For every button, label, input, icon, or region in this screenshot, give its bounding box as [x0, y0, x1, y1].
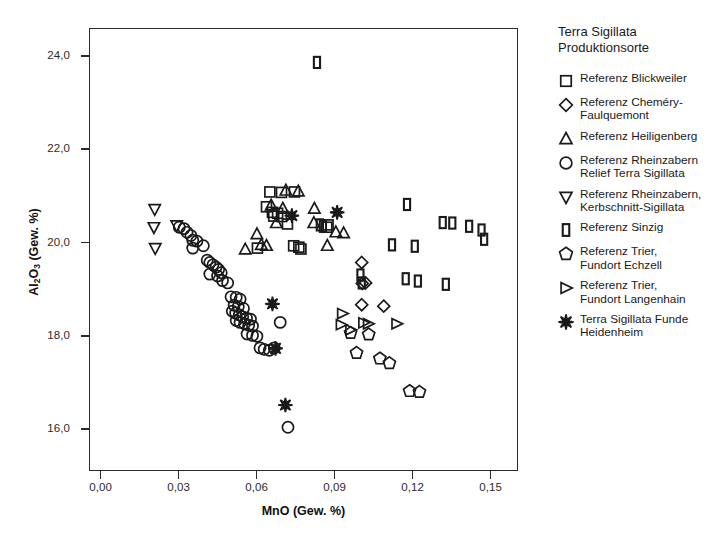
- data-point-diamond: [356, 299, 368, 311]
- series-circle: [174, 222, 294, 433]
- y-tick: [81, 428, 89, 430]
- legend-item-label: Referenz Heiligenberg: [580, 130, 697, 143]
- x-tick: [178, 471, 180, 479]
- diamond-icon: [556, 97, 576, 113]
- data-point-diamond: [356, 257, 368, 269]
- x-tick: [256, 471, 258, 479]
- legend-label-line: Referenz Cheméry-: [580, 96, 683, 109]
- data-point-star: [265, 297, 279, 311]
- y-tick: [81, 55, 89, 57]
- data-point-square: [265, 187, 275, 197]
- legend-label-line: Referenz Trier,: [580, 245, 662, 258]
- data-point-triangle-up: [251, 228, 262, 239]
- data-point-sinzig: [403, 273, 409, 284]
- series-sinzig: [314, 57, 487, 290]
- x-tick-label: 0,03: [154, 481, 204, 493]
- data-point-sinzig: [449, 217, 455, 228]
- x-tick-label: 0,15: [466, 481, 516, 493]
- legend-item-5[interactable]: Referenz Sinzig: [556, 221, 722, 238]
- data-point-sinzig: [443, 279, 449, 290]
- y-axis-title: Al2O3 (Gew. %): [27, 132, 41, 372]
- legend-item-label: Referenz Trier,Fundort Langenhain: [580, 279, 686, 306]
- data-point-triangle-up: [322, 240, 333, 251]
- y-tick-label: 16,0: [24, 422, 70, 434]
- circle-icon: [556, 155, 576, 171]
- sinzig-icon: [556, 222, 576, 238]
- data-point-star: [330, 205, 344, 219]
- legend-item-label: Referenz Blickweiler: [580, 72, 687, 85]
- data-point-sinzig: [389, 239, 395, 250]
- legend-item-label: Referenz Rheinzabern,Kerbschnitt-Sigilla…: [580, 188, 701, 215]
- legend-title-line1: Terra Sigillata: [558, 24, 722, 40]
- x-tick: [490, 471, 492, 479]
- triangle-right-icon: [556, 280, 576, 296]
- legend-label-line: Faulquemont: [580, 109, 683, 122]
- pentagon-icon: [556, 246, 576, 262]
- legend-label-line: Terra Sigillata Funde: [580, 313, 688, 326]
- legend-item-list: Referenz BlickweilerReferenz Cheméry-Fau…: [556, 72, 722, 340]
- legend-label-line: Referenz Trier,: [580, 279, 686, 292]
- series-triangle-right: [336, 308, 402, 334]
- legend-label-line: Fundort Langenhain: [580, 293, 686, 306]
- legend-label-line: Referenz Heiligenberg: [580, 130, 697, 143]
- legend-item-3[interactable]: Referenz RheinzabernRelief Terra Sigilla…: [556, 154, 722, 181]
- data-point-star: [278, 398, 292, 412]
- legend-item-label: Referenz Sinzig: [580, 221, 663, 234]
- data-point-pentagon: [350, 347, 362, 359]
- legend-item-4[interactable]: Referenz Rheinzabern,Kerbschnitt-Sigilla…: [556, 188, 722, 215]
- data-point-triangle-right: [338, 308, 349, 318]
- data-point-sinzig: [314, 57, 320, 68]
- legend-item-0[interactable]: Referenz Blickweiler: [556, 72, 722, 89]
- legend: Terra Sigillata Produktionsorte Referenz…: [556, 24, 722, 347]
- series-triangle-down: [148, 205, 182, 255]
- legend-title: Terra Sigillata Produktionsorte: [556, 24, 722, 56]
- legend-label-line: Heidenheim: [580, 326, 688, 339]
- legend-label-line: Referenz Rheinzabern,: [580, 188, 701, 201]
- legend-label-line: Relief Terra Sigillata: [580, 167, 698, 180]
- data-point-circle: [282, 422, 293, 433]
- legend-item-1[interactable]: Referenz Cheméry-Faulquemont: [556, 96, 722, 123]
- legend-label-line: Referenz Sinzig: [580, 221, 663, 234]
- data-point-star: [268, 341, 282, 355]
- data-point-sinzig: [466, 221, 472, 232]
- data-point-triangle-up: [309, 202, 320, 213]
- series-diamond: [356, 257, 390, 313]
- data-point-sinzig: [440, 217, 446, 228]
- x-tick-label: 0,06: [232, 481, 282, 493]
- data-point-pentagon: [363, 328, 375, 340]
- legend-item-label: Referenz RheinzabernRelief Terra Sigilla…: [580, 154, 698, 181]
- square-icon: [556, 73, 576, 89]
- legend-item-label: Terra Sigillata FundeHeidenheim: [580, 313, 688, 340]
- data-point-sinzig: [415, 275, 421, 286]
- star-icon: [556, 314, 576, 330]
- data-point-triangle-down: [148, 223, 159, 234]
- legend-item-7[interactable]: Referenz Trier,Fundort Langenhain: [556, 279, 722, 306]
- x-axis-title: MnO (Gew. %): [89, 504, 518, 518]
- triangle-down-icon: [556, 189, 576, 205]
- x-tick: [412, 471, 414, 479]
- legend-label-line: Kerbschnitt-Sigillata: [580, 201, 701, 214]
- data-point-triangle-right: [392, 319, 403, 329]
- legend-item-2[interactable]: Referenz Heiligenberg: [556, 130, 722, 147]
- legend-label-line: Referenz Blickweiler: [580, 72, 687, 85]
- y-tick: [81, 335, 89, 337]
- legend-item-label: Referenz Trier,Fundort Echzell: [580, 245, 662, 272]
- data-point-sinzig: [412, 241, 418, 252]
- series-pentagon: [345, 327, 426, 397]
- legend-label-line: Fundort Echzell: [580, 259, 662, 272]
- data-point-star: [285, 208, 299, 222]
- y-tick: [81, 242, 89, 244]
- x-tick-label: 0,09: [310, 481, 360, 493]
- legend-item-8[interactable]: Terra Sigillata FundeHeidenheim: [556, 313, 722, 340]
- legend-item-label: Referenz Cheméry-Faulquemont: [580, 96, 683, 123]
- y-tick: [81, 148, 89, 150]
- y-tick-label: 24,0: [24, 49, 70, 61]
- scatter-plot-area: [89, 28, 518, 471]
- triangle-up-icon: [556, 131, 576, 147]
- data-point-triangle-down: [149, 205, 160, 216]
- legend-item-6[interactable]: Referenz Trier,Fundort Echzell: [556, 245, 722, 272]
- x-tick: [100, 471, 102, 479]
- data-point-circle: [275, 317, 286, 328]
- data-point-triangle-down: [150, 244, 161, 255]
- data-point-diamond: [378, 300, 390, 312]
